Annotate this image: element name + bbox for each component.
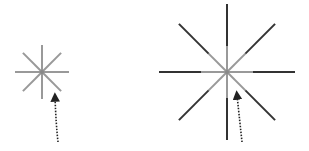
center-dot [225, 70, 229, 74]
inner-ray [209, 72, 227, 90]
small-starburst-icon [15, 45, 69, 99]
large-starburst-icon [159, 4, 295, 140]
dotted-arrow [55, 97, 58, 142]
outer-ray [179, 24, 209, 54]
inner-ray [209, 54, 227, 72]
inner-ray [227, 72, 245, 90]
diagram-canvas [0, 0, 309, 151]
inner-ray [42, 53, 61, 72]
center-dot [40, 70, 44, 74]
dotted-arrow [237, 95, 242, 142]
outer-ray [245, 24, 275, 54]
outer-ray [245, 90, 275, 120]
large-pointer-arrow-icon [237, 95, 242, 142]
outer-ray [179, 90, 209, 120]
inner-ray [23, 72, 42, 91]
inner-ray [42, 72, 61, 91]
inner-ray [23, 53, 42, 72]
inner-ray [227, 54, 245, 72]
small-pointer-arrow-icon [55, 97, 58, 142]
